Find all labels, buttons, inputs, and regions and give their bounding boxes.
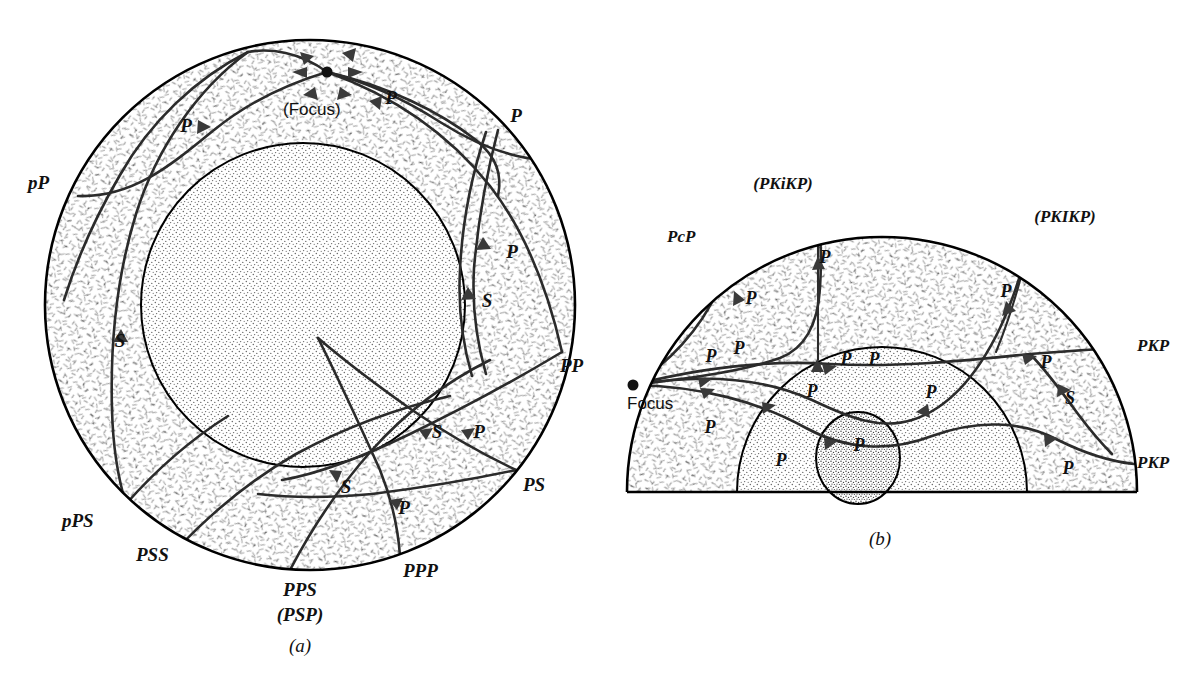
panel-a-core [141,143,465,467]
label-P-rightsurface: P [509,105,522,126]
label-PcP: PcP [666,227,696,246]
focus-label-b: Focus [627,394,673,413]
label-PKIKP: (PKIKP) [1034,207,1095,226]
focus-point-b [628,380,639,391]
label-b-S: S [1065,388,1075,408]
focus-label-a: (Focus) [283,100,341,119]
label-PKiKP: (PKiKP) [753,174,813,193]
label-b-P-11: P [704,417,717,437]
label-b-P-2: P [745,288,758,308]
label-PSP: (PSP) [277,604,323,626]
panel-b-caption: (b) [869,528,891,550]
panel-a: (Focus) pP P P P P S PP S S P PS S P pPS… [26,40,584,657]
label-PPP: PPP [402,560,438,581]
label-P-bottom: P [397,497,410,518]
label-pPS: pPS [60,510,94,531]
label-b-P-4: P [1040,352,1053,372]
label-PSS: PSS [135,544,169,565]
label-P-upperleft: P [179,115,192,136]
ray-PcP-surface [730,196,742,222]
label-b-P-8: P [868,349,881,369]
label-P-lowerright: P [472,421,485,442]
label-b-P-10: P [925,382,938,402]
label-S-leftlimb: S [115,330,126,351]
panel-b: Focus (PKiKP) (PKIKP) PcP PKP PKP P P P … [627,174,1170,550]
label-pP: pP [26,172,50,193]
label-PP: PP [559,355,584,376]
label-b-P-7: P [840,349,853,369]
focus-point-a [322,67,333,78]
label-b-P-6: P [733,338,746,358]
label-S-rightlimb: S [482,290,493,311]
label-S-bottom: S [341,476,352,497]
label-PKP-upper: PKP [1136,336,1170,355]
label-b-P-13: P [853,435,866,455]
label-b-P-3: P [1000,281,1013,301]
seismic-ray-path-figure: (Focus) pP P P P P S PP S S P PS S P pPS… [0,0,1182,687]
label-PS: PS [522,474,545,495]
label-P-upperright: P [384,87,397,108]
label-S-lowerright: S [432,421,443,442]
label-PKP-lower: PKP [1136,453,1170,472]
label-b-P-5: P [705,346,718,366]
label-b-P-9: P [806,381,819,401]
label-b-P-14: P [1062,458,1075,478]
label-b-P-12: P [775,450,788,470]
label-b-P-1: P [819,247,832,267]
figure-canvas: (Focus) pP P P P P S PP S S P PS S P pPS… [0,0,1182,687]
panel-a-caption: (a) [289,635,311,657]
label-P-rightlimb: P [505,241,518,262]
label-PPS: PPS [282,579,317,600]
